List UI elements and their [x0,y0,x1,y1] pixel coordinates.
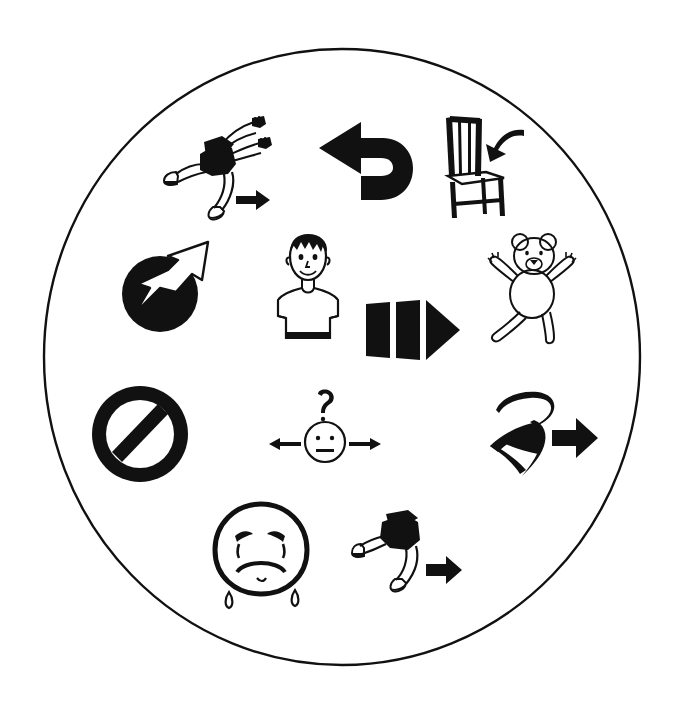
questioning-face-with-arrows-icon [261,390,389,470]
teddy-bear-icon [480,228,588,346]
u-turn-arrow-icon [317,114,435,218]
circle-board [0,0,675,704]
running-person-with-arms-icon [160,112,278,222]
pictogram-u-turn-arrow[interactable]: Thick U-turn arrow pointing left [317,114,435,218]
boy-standing-icon [262,232,354,348]
segmented-right-arrow-icon [364,294,464,366]
crying-sad-face-icon [205,500,317,612]
pictogram-ball-throw[interactable]: Black ball with white arrow shooting up … [116,236,228,336]
pictogram-crying-face[interactable]: Sad face with tears running down [205,500,317,612]
running-legs-icon [352,508,464,596]
pictogram-confused-face[interactable]: Neutral face with a question mark above … [261,390,389,470]
pictogram-circle-screenshot: Running figure with outstretched arms an… [0,0,675,704]
pictogram-run-legs[interactable]: Running legs with a forward arrow [352,508,464,596]
pictogram-sit-on-chair[interactable]: Chair with curved arrow pointing to the … [432,114,530,222]
pictogram-teddy-bear[interactable]: Teddy bear with arms and legs spread out [480,228,588,346]
chair-sit-down-icon [432,114,530,222]
pictogram-block-arrow[interactable]: Thick segmented arrow pointing right [364,294,464,366]
pictogram-prohibition-sign[interactable]: Black circle with diagonal slash [88,382,192,486]
pictogram-swirl-arrow[interactable]: Brush-stroke loop swirl beside a right-p… [488,390,598,484]
pictogram-boy-figure[interactable]: Smiling boy with spiky hair standing fac… [262,232,354,348]
ball-with-arrow-icon [116,236,228,336]
pictogram-run-with-arms[interactable]: Running figure with outstretched arms an… [160,112,278,222]
swirl-loop-with-arrow-icon [488,390,598,484]
no-entry-prohibition-icon [88,382,192,486]
